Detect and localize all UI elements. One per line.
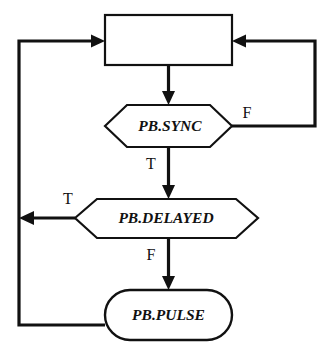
arrowhead-into-top-box-left	[91, 35, 105, 48]
node-top-process[interactable]	[105, 15, 232, 65]
edge-pulse-to-top-path	[19, 41, 105, 325]
edge-pulse-to-top	[19, 35, 105, 326]
pb-delayed-label: PB.DELAYED	[118, 209, 213, 226]
flowchart-canvas: PB.SYNC PB.DELAYED PB.PULSE F T T F	[0, 0, 336, 349]
arrowhead-into-pb-delayed	[162, 185, 175, 199]
edge-top-to-sync	[162, 65, 175, 105]
top-process-rect[interactable]	[105, 15, 232, 65]
arrowhead-into-left-rail	[19, 211, 34, 225]
branch-label-delayed-false: F	[147, 246, 156, 263]
pb-pulse-label: PB.PULSE	[132, 306, 205, 323]
edge-delayed-false	[162, 238, 175, 290]
branch-label-sync-false: F	[243, 104, 252, 121]
arrowhead-into-top-box-right	[232, 35, 246, 48]
branch-label-delayed-true: T	[63, 190, 73, 207]
node-pb-pulse[interactable]: PB.PULSE	[105, 290, 232, 340]
node-pb-delayed[interactable]: PB.DELAYED	[75, 199, 258, 238]
edge-sync-true	[162, 147, 175, 199]
flowchart-svg: PB.SYNC PB.DELAYED PB.PULSE F T T F	[0, 0, 336, 349]
node-pb-sync[interactable]: PB.SYNC	[105, 105, 232, 147]
branch-label-sync-true: T	[146, 155, 156, 172]
arrowhead-into-pb-pulse	[162, 276, 175, 290]
edge-delayed-true	[19, 211, 75, 225]
pb-sync-label: PB.SYNC	[138, 117, 202, 134]
arrowhead-into-pb-sync	[162, 91, 175, 105]
